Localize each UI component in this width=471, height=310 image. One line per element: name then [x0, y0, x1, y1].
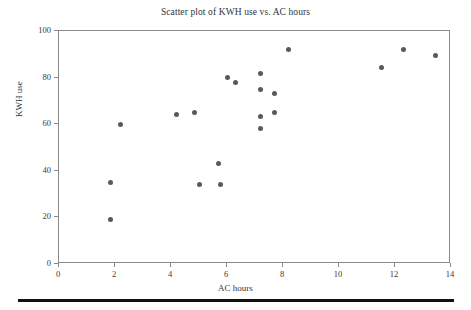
- x-tick-label: 10: [326, 269, 350, 279]
- scatter-point: [258, 87, 263, 92]
- x-tick-mark: [450, 263, 451, 267]
- scatter-points-layer: [59, 31, 449, 262]
- x-tick-mark: [170, 263, 171, 267]
- scatter-point: [286, 47, 291, 52]
- x-tick-label: 2: [102, 269, 126, 279]
- plot-area: [58, 30, 450, 263]
- y-tick-mark: [54, 30, 58, 31]
- y-tick-label: 20: [27, 211, 51, 221]
- x-tick-mark: [226, 263, 227, 267]
- scatter-point: [258, 71, 263, 76]
- scatter-point: [192, 110, 197, 115]
- x-tick-label: 0: [46, 269, 70, 279]
- x-tick-label: 4: [158, 269, 182, 279]
- y-tick-mark: [54, 170, 58, 171]
- x-tick-mark: [58, 263, 59, 267]
- bottom-rule: [18, 299, 454, 302]
- scatter-point: [197, 182, 202, 187]
- scatter-point: [225, 75, 230, 80]
- scatter-point: [272, 91, 277, 96]
- y-tick-label: 40: [27, 165, 51, 175]
- x-tick-mark: [282, 263, 283, 267]
- x-tick-label: 14: [438, 269, 462, 279]
- scatter-point: [258, 114, 263, 119]
- scatter-point: [174, 112, 179, 117]
- x-tick-label: 12: [382, 269, 406, 279]
- chart-title: Scatter plot of KWH use vs. AC hours: [0, 7, 471, 17]
- scatter-point: [433, 53, 438, 58]
- scatter-point: [108, 180, 113, 185]
- scatter-point: [401, 47, 406, 52]
- scatter-point: [218, 182, 223, 187]
- y-axis-title: KWH use: [14, 81, 24, 117]
- x-tick-label: 6: [214, 269, 238, 279]
- scatter-point: [216, 161, 221, 166]
- y-tick-label: 0: [27, 258, 51, 268]
- scatter-point: [233, 80, 238, 85]
- x-tick-label: 8: [270, 269, 294, 279]
- y-tick-label: 60: [27, 118, 51, 128]
- scatter-point: [379, 65, 384, 70]
- scatter-point: [118, 122, 123, 127]
- x-axis-title: AC hours: [0, 283, 471, 293]
- scatter-point: [108, 217, 113, 222]
- y-tick-label: 100: [27, 25, 51, 35]
- y-tick-mark: [54, 77, 58, 78]
- y-tick-mark: [54, 123, 58, 124]
- scatter-point: [272, 110, 277, 115]
- x-tick-mark: [338, 263, 339, 267]
- scatter-point: [258, 126, 263, 131]
- y-tick-mark: [54, 216, 58, 217]
- x-tick-mark: [394, 263, 395, 267]
- figure-container: Scatter plot of KWH use vs. AC hours KWH…: [0, 0, 471, 310]
- x-tick-mark: [114, 263, 115, 267]
- y-tick-label: 80: [27, 72, 51, 82]
